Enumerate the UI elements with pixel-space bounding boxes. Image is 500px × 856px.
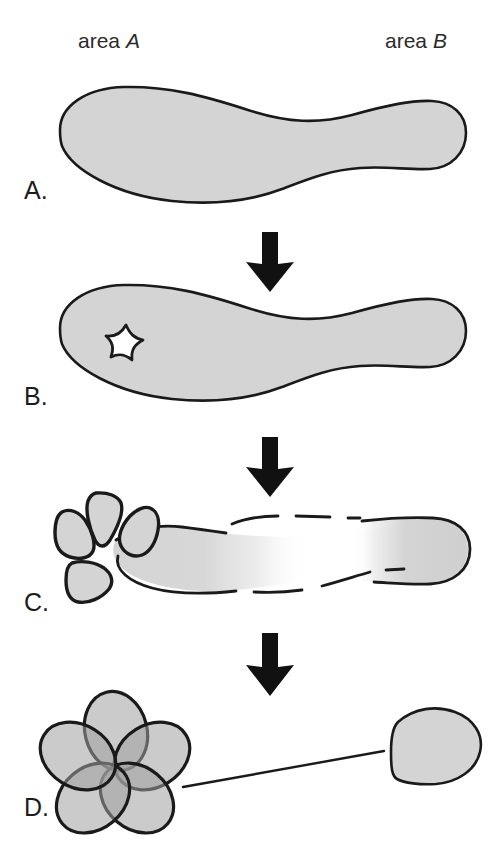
arrow-a-to-b: [246, 232, 294, 292]
panel-d-isolated-blob: [391, 708, 481, 784]
down-arrow-icon: [246, 232, 294, 292]
panel-d-letter: D.: [24, 793, 49, 821]
panel-c-letter: C.: [24, 588, 49, 616]
area-a-label: area A: [78, 29, 140, 52]
panel-a: A.: [24, 87, 466, 204]
panel-c: C.: [24, 493, 470, 616]
panel-c-petal-bottom-left: [66, 562, 112, 603]
panel-c-dash-bottom-3: [386, 569, 404, 570]
panel-a-organ-shape: [60, 87, 466, 203]
area-b-label: area B: [385, 29, 447, 52]
down-arrow-icon: [246, 437, 294, 497]
panel-c-dash-bottom-1: [254, 590, 302, 592]
down-arrow-icon: [246, 633, 294, 696]
panel-c-dash-top-1: [232, 516, 278, 524]
arrow-b-to-c: [246, 437, 294, 497]
panel-c-dash-top-2: [296, 516, 330, 517]
area-a-prefix: area: [78, 29, 126, 52]
arrow-c-to-d: [246, 633, 294, 696]
diagram-svg: area A area B A. B.: [0, 0, 500, 856]
area-b-italic: B: [433, 29, 447, 52]
panel-d: D.: [24, 685, 481, 848]
figure-container: area A area B A. B.: [0, 0, 500, 856]
panel-b: B.: [24, 285, 466, 410]
panel-c-tip-fill: [354, 519, 468, 584]
panel-d-rosette: [28, 685, 203, 848]
area-b-prefix: area: [385, 29, 433, 52]
panel-b-letter: B.: [24, 382, 48, 410]
panel-a-letter: A.: [24, 176, 48, 204]
area-a-italic: A: [124, 29, 140, 52]
panel-d-connector-line: [183, 751, 384, 787]
